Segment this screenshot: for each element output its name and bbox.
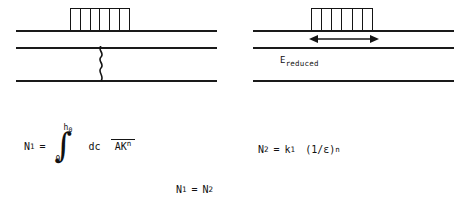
bottom-line (253, 80, 454, 82)
reduced-modulus-panel: Ereduced (235, 0, 470, 105)
center-rhs-subscript: 2 (209, 185, 214, 194)
hatched-load-block (311, 8, 373, 30)
epsilon-term: (1/ε) (305, 144, 335, 155)
figure-root: Ereduced N1 = h0 ∫ 0 dc AKn N2 = k1 (1/ε… (0, 0, 470, 210)
fraction-numerator: dc (85, 141, 105, 153)
n2-subscript: 2 (264, 145, 269, 154)
middle-line (16, 47, 217, 49)
hatched-load-block (70, 8, 130, 30)
equation-n1-equals-n2: N1 = N2 (176, 184, 213, 195)
hatch-line (90, 9, 91, 30)
hatch-line (80, 9, 81, 30)
hatch-line (341, 9, 342, 30)
hatch-line (99, 9, 100, 30)
double-headed-arrow (309, 33, 379, 45)
integral-group: h0 ∫ 0 (53, 126, 77, 166)
hatch-line (352, 9, 353, 30)
equals-sign: = (40, 141, 46, 152)
integral-lower-limit: 0 (56, 155, 61, 164)
center-lhs-subscript: 1 (182, 185, 187, 194)
equation-n1: N1 = h0 ∫ 0 dc AKn (24, 126, 135, 166)
denominator-exponent: n (127, 139, 132, 148)
hatch-line (321, 9, 322, 30)
bottom-line (16, 80, 217, 82)
coefficient-subscript: 1 (291, 145, 296, 154)
cracked-specimen-panel (0, 0, 235, 105)
epsilon-exponent: n (335, 145, 340, 154)
crack-wavy-line (92, 46, 110, 82)
equation-n2: N2 = k1 (1/ε)n (258, 144, 340, 155)
top-surface-line (253, 30, 454, 32)
equals-sign: = (192, 184, 198, 195)
middle-line (253, 47, 454, 49)
hatch-line (109, 9, 110, 30)
integrand-fraction: dc AKn (85, 140, 136, 153)
e-reduced-label: Ereduced (280, 55, 319, 68)
denominator-base: AK (115, 141, 127, 152)
hatch-line (362, 9, 363, 30)
e-reduced-subscript: reduced (286, 59, 319, 68)
top-surface-line (16, 30, 217, 32)
equals-sign: = (274, 144, 280, 155)
fraction-denominator: AKn (111, 139, 136, 152)
hatch-line (119, 9, 120, 30)
n1-subscript: 1 (30, 142, 35, 151)
hatch-line (331, 9, 332, 30)
